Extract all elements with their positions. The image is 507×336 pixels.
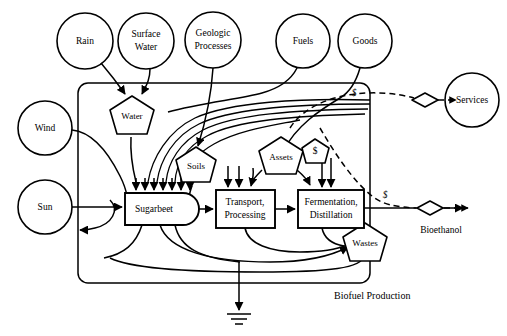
arrow-bundle-transport: [228, 166, 253, 187]
flow-wastes-recycle: [110, 256, 364, 272]
source-geologic-label-line2: Processes: [195, 41, 232, 51]
flow-wind-to-sugarbeet: [72, 130, 127, 196]
flow-rain-to-water: [101, 63, 125, 94]
flow-sugarbeet-recycle-2: [175, 225, 240, 262]
transaction-services[interactable]: [412, 93, 438, 107]
diagram-canvas: Rain Surface Water Geologic Processes Fu…: [0, 0, 507, 336]
money-label-bioethanol: $: [383, 190, 388, 200]
source-surface-water-label-line2: Water: [135, 42, 158, 52]
source-geologic-label-line1: Geologic: [196, 28, 231, 38]
source-wind[interactable]: Wind: [18, 101, 72, 155]
storage-water-label: Water: [121, 111, 142, 121]
process-fermentation-label-line1: Fermentation,: [304, 197, 357, 207]
source-geologic-processes[interactable]: Geologic Processes: [185, 12, 241, 68]
flow-sun-heat-return: [80, 200, 114, 230]
storage-money-label: $: [313, 146, 318, 156]
source-sun[interactable]: Sun: [18, 180, 72, 234]
storage-water[interactable]: Water: [110, 96, 154, 134]
process-transport-label-line2: Processing: [224, 210, 265, 220]
flow-water-to-sugarbeet: [131, 137, 136, 182]
source-rain-label: Rain: [76, 36, 94, 46]
source-wind-label: Wind: [35, 123, 56, 133]
transaction-bioethanol[interactable]: Bioethanol: [417, 201, 462, 235]
producer-sugarbeet[interactable]: Sugarbeet: [125, 193, 199, 225]
flow-sugarbeet-recycle-1: [104, 225, 142, 258]
flow-fuels-into-system: [168, 68, 297, 112]
storage-wastes-label: Wastes: [352, 238, 378, 248]
flow-fermentation-to-wastes: [322, 228, 344, 246]
process-transport-processing[interactable]: Transport, Processing: [216, 190, 275, 228]
process-fermentation-distillation[interactable]: Fermentation, Distillation: [298, 190, 364, 228]
process-transport-label-line1: Transport,: [226, 197, 265, 207]
output-bioethanol-label: Bioethanol: [420, 225, 462, 235]
storage-assets[interactable]: Assets: [259, 137, 303, 174]
source-rain[interactable]: Rain: [57, 13, 113, 69]
source-surface-water-label-line1: Surface: [131, 29, 160, 39]
flow-transport-to-wastes: [245, 228, 347, 252]
flow-surface-water-to-water: [142, 69, 150, 94]
storage-soils[interactable]: Soils: [176, 147, 216, 182]
source-goods-label: Goods: [353, 36, 378, 46]
source-services-label: Services: [456, 95, 488, 105]
heat-sink-ground-icon: [227, 314, 251, 324]
flow-sugarbeet-to-wastes: [160, 225, 348, 262]
storage-money[interactable]: $: [302, 139, 329, 163]
storage-assets-label: Assets: [269, 152, 293, 162]
process-fermentation-label-line2: Distillation: [310, 210, 353, 220]
source-fuels-label: Fuels: [293, 36, 314, 46]
flow-assets-to-fermentation: [297, 170, 310, 185]
money-label-services: $: [352, 88, 357, 98]
source-sun-label: Sun: [38, 202, 53, 212]
source-goods[interactable]: Goods: [338, 14, 392, 68]
energy-systems-diagram: Rain Surface Water Geologic Processes Fu…: [0, 0, 507, 336]
diagram-caption: Biofuel Production: [334, 290, 410, 301]
producer-sugarbeet-label: Sugarbeet: [135, 204, 173, 214]
source-surface-water[interactable]: Surface Water: [118, 13, 174, 69]
source-fuels[interactable]: Fuels: [276, 14, 330, 68]
storage-soils-label: Soils: [187, 161, 206, 171]
